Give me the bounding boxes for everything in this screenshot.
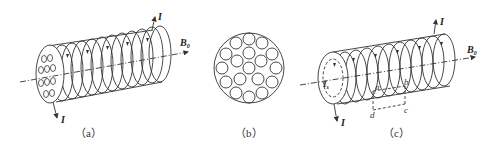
caption-c: （c）: [383, 127, 410, 139]
caption-a: （a）: [75, 127, 102, 139]
point-d: d: [370, 110, 375, 120]
figure-c: [300, 20, 475, 121]
figure-a: [20, 17, 188, 118]
windings-c: [334, 34, 455, 104]
label-field-a: B0: [179, 37, 190, 49]
label-current-top-c: I: [439, 16, 445, 27]
label-current-bottom-a: I: [60, 114, 66, 125]
label-field-c: B0: [466, 44, 477, 56]
label-current-bottom-c: I: [340, 117, 346, 128]
point-a: a: [375, 82, 380, 92]
label-current-top-a: I: [157, 11, 163, 22]
point-b: b: [404, 77, 409, 87]
diagram-canvas: I I B0 （a） （b）: [0, 0, 490, 151]
molecular-currents-b: [216, 33, 282, 103]
caption-b: （b）: [235, 127, 263, 139]
windings-a: [51, 26, 171, 101]
figure-b: [214, 33, 284, 103]
point-c: c: [404, 105, 408, 115]
